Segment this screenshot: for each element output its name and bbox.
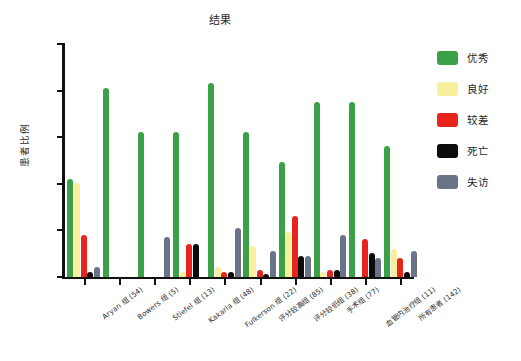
bar [173,132,179,276]
legend-swatch-icon [437,175,458,189]
bar [314,102,320,277]
bar [279,162,285,276]
bar [235,228,241,277]
legend-label: 优秀 [467,50,488,65]
bar-group [279,44,311,277]
bar [193,244,199,277]
legend-item[interactable]: 死亡 [437,139,517,162]
bar [404,272,410,277]
legend-label: 较差 [467,112,488,127]
bar-group [138,44,170,277]
x-tick-0 [84,279,86,285]
x-tick-9 [400,279,402,285]
bar [263,274,269,276]
bar [340,235,346,277]
legend-swatch-icon [437,51,458,65]
x-tick-8 [365,279,367,285]
bar [375,258,381,277]
x-tick-7 [330,279,332,285]
bar [298,256,304,277]
bar [67,179,73,277]
y-axis-label: 患者比例 [17,105,31,185]
bar [362,239,368,276]
chart-title: 结果 [0,11,440,27]
bar [397,258,403,277]
bar [243,132,249,276]
bar [215,267,221,276]
bar [180,272,186,277]
legend-label: 死亡 [467,143,488,158]
bar [250,246,256,276]
bar [228,272,234,277]
y-tick-4 [57,90,63,92]
bar [81,235,87,277]
y-tick-3 [57,136,63,138]
bar [164,237,170,277]
bar [292,216,298,277]
chart-legend: 优秀良好较差死亡失访 [437,46,517,201]
legend-label: 良好 [467,81,488,96]
bar [327,270,333,277]
legend-item[interactable]: 失访 [437,170,517,193]
x-tick-3 [189,279,191,285]
bar-group [173,44,205,277]
plot-area [62,43,414,279]
bar [305,256,311,277]
bar-group [243,44,275,277]
y-tick-0 [57,276,63,278]
bar-group [314,44,346,277]
bar [334,270,340,277]
y-tick-2 [57,183,63,185]
y-tick-5 [57,43,63,45]
bar [103,88,109,277]
bar [411,251,417,277]
legend-item[interactable]: 良好 [437,77,517,100]
y-axis-line [62,43,65,279]
bar [270,251,276,277]
legend-swatch-icon [437,82,458,96]
bar [391,249,397,277]
bar [94,267,100,276]
y-tick-1 [57,229,63,231]
bar [74,183,80,276]
x-tick-1 [119,279,121,285]
legend-item[interactable]: 较差 [437,108,517,131]
bar [138,132,144,276]
bar [257,270,263,277]
bar-group [208,44,240,277]
bar [349,102,355,277]
bar [87,272,93,277]
bar [369,253,375,276]
bar-group [349,44,381,277]
bar [186,244,192,277]
x-tick-6 [295,279,297,285]
bar [221,272,227,277]
bar [208,83,214,276]
x-tick-4 [224,279,226,285]
x-tick-2 [154,279,156,285]
bar [384,146,390,276]
legend-swatch-icon [437,113,458,127]
bar [320,272,326,277]
bar-group [67,44,99,277]
bar-group [103,44,135,277]
x-tick-5 [260,279,262,285]
legend-swatch-icon [437,144,458,158]
bar [285,232,291,276]
x-axis-line [62,277,414,280]
legend-item[interactable]: 优秀 [437,46,517,69]
legend-label: 失访 [467,174,488,189]
chart-figure: 结果 患者比例 Aryan 组 (54)Bowers 组 (5)Stiefel … [0,0,521,361]
bar-group [384,44,416,277]
